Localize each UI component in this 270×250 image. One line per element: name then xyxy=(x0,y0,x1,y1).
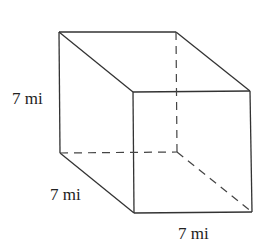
visible-edges xyxy=(59,32,252,213)
top-left-depth-edge xyxy=(59,32,133,92)
bottom-right-depth-hidden-edge xyxy=(177,152,252,212)
back-left-edge xyxy=(59,32,60,153)
front-top-edge xyxy=(133,91,250,92)
front-right-edge xyxy=(250,91,252,212)
top-right-depth-edge xyxy=(176,32,250,91)
hidden-edges xyxy=(60,32,252,212)
back-bottom-hidden-edge xyxy=(60,152,177,153)
bottom-left-depth-edge xyxy=(60,153,134,213)
width-label: 7 mi xyxy=(178,224,209,243)
front-bottom-edge xyxy=(134,212,252,213)
cube-figure: 7 mi 7 mi 7 mi xyxy=(0,0,270,250)
height-label: 7 mi xyxy=(12,89,43,108)
depth-label: 7 mi xyxy=(50,185,81,204)
cube-diagram: 7 mi 7 mi 7 mi xyxy=(0,0,270,250)
back-right-hidden-edge xyxy=(176,32,177,152)
